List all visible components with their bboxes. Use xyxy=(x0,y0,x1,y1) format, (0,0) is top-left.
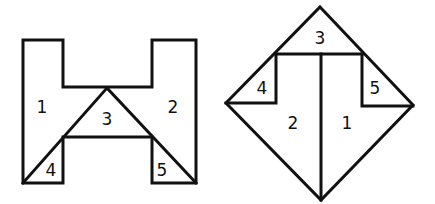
diamond-piece-4-label: 4 xyxy=(257,78,268,98)
diamond-piece-3-label: 3 xyxy=(315,28,326,48)
diamond-piece-2-label: 2 xyxy=(288,113,299,133)
h-piece-3-label: 3 xyxy=(102,109,113,129)
diamond-piece-1-label: 1 xyxy=(342,113,353,133)
diamond-figure: 3 4 5 2 1 xyxy=(226,7,413,200)
h-shape-figure: 1 2 3 4 5 xyxy=(23,40,196,183)
h-piece-5-label: 5 xyxy=(157,160,168,180)
h-piece-4-label: 4 xyxy=(46,160,57,180)
h-piece-1-label: 1 xyxy=(37,97,48,117)
diamond-piece-5-label: 5 xyxy=(370,78,381,98)
dissection-diagram: 1 2 3 4 5 3 4 5 2 1 xyxy=(0,0,435,204)
h-piece-2-label: 2 xyxy=(168,97,179,117)
